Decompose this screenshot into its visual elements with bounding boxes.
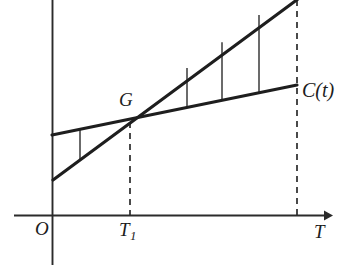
t1-axis-label-subscript: 1 [130,228,136,243]
x-axis-arrow-icon [324,211,333,221]
x-axis-label: T [314,222,325,241]
diagram-canvas [0,0,341,274]
t1-axis-label: T1 [119,220,136,243]
origin-label: O [35,219,49,238]
cost-curve-label: C(t) [302,80,334,100]
gain-curve-line [53,0,298,180]
intersection-point-label: G [119,90,133,109]
figure-container: O T1 T G C(t) [0,0,341,274]
cost-curve-line [52,85,297,135]
t1-axis-label-main: T [119,219,130,240]
